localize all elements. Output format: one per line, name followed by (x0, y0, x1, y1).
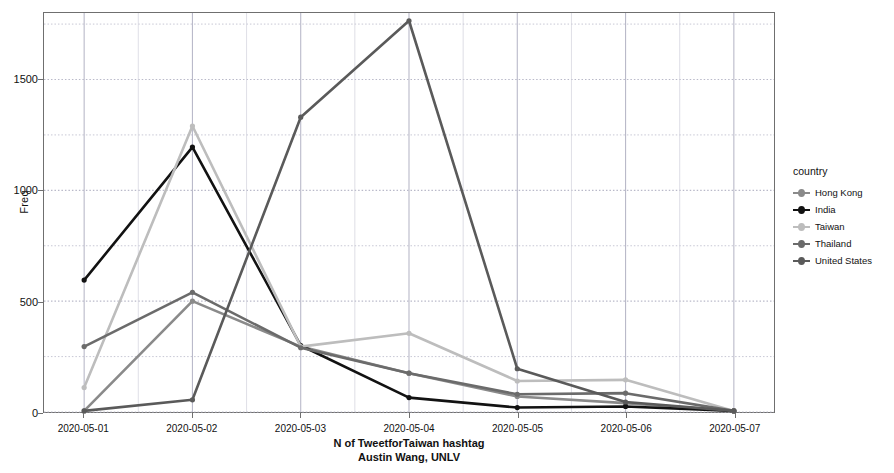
series-line (84, 21, 734, 411)
legend-key-icon (793, 237, 810, 251)
series-point (82, 278, 87, 283)
x-axis-tick-label: 2020-05-01 (58, 423, 109, 434)
y-axis-tick-label: 0 (4, 407, 38, 419)
chart-figure: Freq 050010001500 2020-05-012020-05-0220… (0, 0, 894, 473)
x-axis-tick-label: 2020-05-05 (492, 423, 543, 434)
x-axis-tick-label: 2020-05-03 (275, 423, 326, 434)
series-point (515, 378, 520, 383)
caption-line-1: N of TweetforTaiwan hashtag (43, 436, 775, 450)
legend-item[interactable]: Thailand (793, 235, 893, 252)
series-point (515, 392, 520, 397)
x-axis-tick-mark (626, 413, 627, 418)
x-axis-tick-mark (192, 413, 193, 418)
series-point (623, 399, 628, 404)
series-layer (44, 13, 774, 412)
legend-title: country (793, 165, 893, 177)
x-axis-tick-label: 2020-05-07 (709, 423, 760, 434)
series-point (190, 145, 195, 150)
legend-item[interactable]: India (793, 201, 893, 218)
series-point (406, 395, 411, 400)
legend: country Hong KongIndiaTaiwanThailandUnit… (793, 165, 893, 269)
x-axis-tick-label: 2020-05-04 (383, 423, 434, 434)
series-united-states (82, 18, 737, 413)
legend-key-icon (793, 203, 810, 217)
legend-item-label: Hong Kong (815, 187, 863, 198)
x-axis-tick-mark (83, 413, 84, 418)
legend-key-icon (793, 220, 810, 234)
series-point (298, 115, 303, 120)
plot-panel (43, 12, 775, 413)
y-axis-tick-mark (38, 413, 43, 414)
series-thailand (82, 290, 737, 414)
series-point (82, 385, 87, 390)
series-point (406, 18, 411, 23)
y-axis-tick-labels: 050010001500 (0, 0, 38, 473)
legend-item-label: India (815, 204, 836, 215)
x-axis-tick-mark (518, 413, 519, 418)
series-point (190, 397, 195, 402)
series-point (406, 331, 411, 336)
x-axis-tick-mark (409, 413, 410, 418)
y-axis-tick-label: 500 (4, 296, 38, 308)
series-taiwan (82, 123, 737, 413)
legend-key-icon (793, 254, 810, 268)
series-point (298, 345, 303, 350)
y-axis-tick-label: 1000 (4, 184, 38, 196)
legend-item-label: United States (815, 255, 872, 266)
x-axis-tick-label: 2020-05-02 (166, 423, 217, 434)
caption-line-2: Austin Wang, UNLV (43, 450, 775, 464)
legend-items: Hong KongIndiaTaiwanThailandUnited State… (793, 184, 893, 269)
legend-item[interactable]: United States (793, 252, 893, 269)
legend-key-icon (793, 186, 810, 200)
legend-item[interactable]: Taiwan (793, 218, 893, 235)
legend-item-label: Thailand (815, 238, 851, 249)
legend-item[interactable]: Hong Kong (793, 184, 893, 201)
x-axis-tick-mark (300, 413, 301, 418)
series-point (82, 344, 87, 349)
series-point (623, 391, 628, 396)
x-axis-tick-mark (735, 413, 736, 418)
series-point (190, 299, 195, 304)
series-point (623, 404, 628, 409)
series-point (190, 123, 195, 128)
series-line (84, 126, 734, 411)
series-point (515, 366, 520, 371)
y-axis-tick-label: 1500 (4, 73, 38, 85)
chart-caption: N of TweetforTaiwan hashtag Austin Wang,… (43, 436, 775, 464)
series-point (190, 290, 195, 295)
series-line (84, 292, 734, 411)
x-axis-tick-label: 2020-05-06 (601, 423, 652, 434)
series-point (406, 371, 411, 376)
legend-item-label: Taiwan (815, 221, 845, 232)
series-point (623, 377, 628, 382)
series-point (515, 405, 520, 410)
